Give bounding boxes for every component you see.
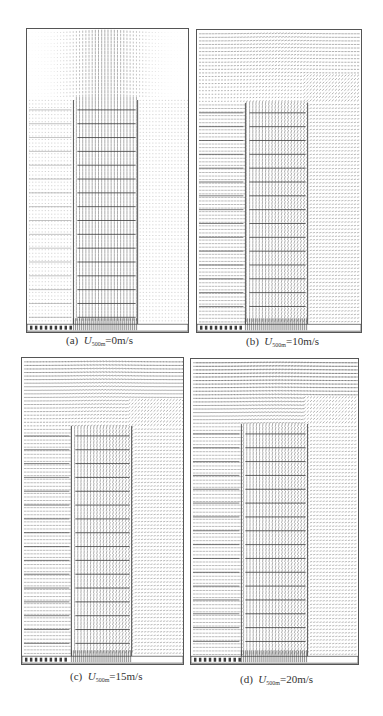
caption-value: =15m/s bbox=[109, 670, 142, 682]
vector-field-plot bbox=[197, 30, 361, 332]
caption-value: =20m/s bbox=[280, 673, 313, 685]
caption-b: (b) U500m=10m/s bbox=[246, 335, 319, 348]
caption-value: =0m/s bbox=[105, 334, 133, 346]
vector-field-panel-a bbox=[26, 28, 189, 333]
vector-field-panel-d bbox=[190, 358, 359, 665]
caption-label: (a) bbox=[66, 334, 78, 346]
vector-field-panel-b bbox=[196, 29, 362, 333]
caption-d: (d) U500m=20m/s bbox=[240, 673, 313, 686]
caption-subscript: 500m bbox=[272, 342, 286, 348]
vector-field-plot bbox=[22, 358, 183, 664]
caption-label: (c) bbox=[70, 670, 82, 682]
caption-subscript: 500m bbox=[96, 677, 110, 683]
vector-field-plot bbox=[27, 29, 188, 332]
vector-field-plot bbox=[191, 359, 358, 664]
caption-subscript: 500m bbox=[92, 341, 106, 347]
caption-a: (a) U500m=0m/s bbox=[66, 334, 133, 347]
caption-label: (d) bbox=[240, 673, 253, 685]
caption-subscript: 500m bbox=[266, 680, 280, 686]
caption-value: =10m/s bbox=[286, 335, 319, 347]
caption-variable: U bbox=[84, 334, 92, 346]
caption-c: (c) U500m=15m/s bbox=[70, 670, 142, 683]
caption-variable: U bbox=[88, 670, 96, 682]
vector-field-panel-c bbox=[21, 357, 184, 665]
caption-label: (b) bbox=[246, 335, 259, 347]
